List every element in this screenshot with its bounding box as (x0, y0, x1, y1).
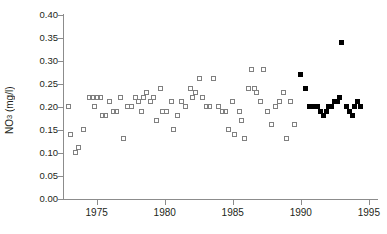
x-tick-label: 1995 (339, 208, 387, 218)
data-point-open (164, 109, 169, 114)
data-point-open (230, 99, 235, 104)
data-point-open (90, 95, 95, 100)
y-tick-label: 0.35 (6, 33, 58, 43)
plot-area (64, 15, 377, 199)
data-point-open (207, 104, 212, 109)
x-tick-label: 1975 (67, 208, 127, 218)
data-point-open (68, 132, 73, 137)
y-tick-label: 0.00 (6, 194, 58, 204)
y-tick-label: 0.25 (6, 79, 58, 89)
data-point-open (136, 99, 141, 104)
y-tick-label: 0.05 (6, 171, 58, 181)
data-point-open (273, 104, 278, 109)
data-point-open (277, 99, 282, 104)
data-point-open (292, 122, 297, 127)
data-point-open (169, 99, 174, 104)
data-point-open (171, 127, 176, 132)
data-point-open (265, 109, 270, 114)
data-point-open (144, 90, 149, 95)
data-point-filled (321, 113, 326, 118)
data-point-open (121, 136, 126, 141)
data-point-open (148, 99, 153, 104)
data-point-open (188, 86, 193, 91)
x-tick-label: 1980 (135, 208, 195, 218)
x-axis-line (63, 199, 378, 200)
data-point-filled (303, 86, 308, 91)
data-point-open (66, 104, 71, 109)
data-point-open (242, 136, 247, 141)
data-point-open (284, 136, 289, 141)
data-point-open (92, 104, 97, 109)
data-point-open (98, 95, 103, 100)
data-point-open (190, 95, 195, 100)
data-point-filled (358, 104, 363, 109)
y-tick-label: 0.15 (6, 125, 58, 135)
data-point-open (73, 150, 78, 155)
data-point-open (288, 99, 293, 104)
data-point-open (103, 113, 108, 118)
data-point-open (193, 90, 198, 95)
y-tick-label: 0.30 (6, 56, 58, 66)
y-tick-label: 0.10 (6, 148, 58, 158)
data-point-open (118, 95, 123, 100)
data-point-open (249, 67, 254, 72)
data-point-open (239, 118, 244, 123)
data-point-open (261, 67, 266, 72)
x-tick-label: 1990 (271, 208, 331, 218)
y-tick-label: 0.20 (6, 102, 58, 112)
data-point-filled (352, 104, 357, 109)
data-point-open (158, 86, 163, 91)
data-point-filled (337, 95, 342, 100)
data-point-open (269, 122, 274, 127)
data-point-open (114, 109, 119, 114)
x-tick-mark (165, 200, 166, 205)
data-point-filled (324, 109, 329, 114)
data-point-open (175, 113, 180, 118)
data-point-filled (329, 104, 334, 109)
data-point-open (81, 127, 86, 132)
data-point-open (211, 76, 216, 81)
data-point-filled (350, 113, 355, 118)
y-tick-label: 0.40 (6, 10, 58, 20)
data-point-open (281, 90, 286, 95)
no3-time-series-chart: NO3 (mg/l) 0.400.350.300.250.200.150.100… (0, 0, 387, 234)
x-tick-label: 1985 (203, 208, 263, 218)
data-point-open (197, 76, 202, 81)
data-point-open (258, 99, 263, 104)
data-point-open (107, 99, 112, 104)
x-tick-mark (301, 200, 302, 205)
data-point-open (223, 109, 228, 114)
data-point-open (129, 104, 134, 109)
data-point-open (151, 95, 156, 100)
data-point-open (246, 86, 251, 91)
data-point-open (141, 95, 146, 100)
data-point-filled (339, 40, 344, 45)
x-tick-mark (233, 200, 234, 205)
data-point-open (183, 104, 188, 109)
data-point-open (226, 127, 231, 132)
data-point-open (76, 145, 81, 150)
data-point-filled (335, 99, 340, 104)
data-point-filled (298, 72, 303, 77)
data-point-open (139, 109, 144, 114)
x-tick-mark (97, 200, 98, 205)
data-point-open (237, 109, 242, 114)
data-point-open (254, 90, 259, 95)
x-tick-mark (369, 200, 370, 205)
data-point-open (154, 118, 159, 123)
data-point-open (232, 132, 237, 137)
data-point-open (200, 95, 205, 100)
